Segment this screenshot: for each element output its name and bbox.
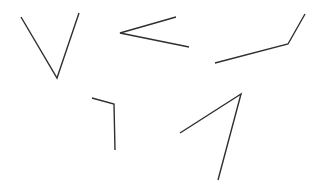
acute-angle-bottom-right (180, 94, 241, 180)
angle-figure-svg (0, 0, 317, 185)
v-angle-top-left (21, 13, 79, 78)
obtuse-angle-top-right (215, 14, 305, 63)
right-angle-bottom-left (92, 98, 115, 150)
less-than-angle-top-center (120, 17, 189, 47)
figure-canvas (0, 0, 317, 185)
